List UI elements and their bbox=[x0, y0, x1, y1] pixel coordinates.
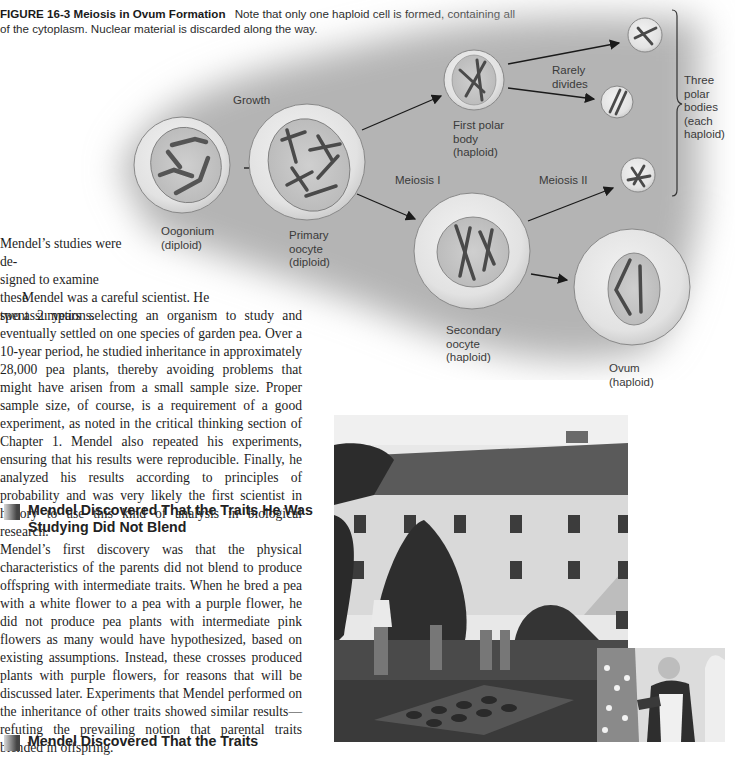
label-oogonium: Oogonium (diploid) bbox=[161, 225, 214, 252]
label-three-polar-bodies: Three polar bodies (each haploid) bbox=[684, 74, 725, 142]
label-secondary-oocyte: Secondary oocyte (haploid) bbox=[446, 324, 501, 365]
heading-marker-icon bbox=[4, 735, 20, 751]
first-polar-body-cell bbox=[444, 50, 504, 110]
paragraph-first-discovery-text: Mendel’s first discovery was that the ph… bbox=[0, 541, 302, 757]
polar-body-top-cell bbox=[628, 18, 662, 52]
label-meiosis-i: Meiosis I bbox=[395, 174, 440, 188]
polar-body-bottom-cell bbox=[621, 158, 655, 192]
heading-text: Mendel Discovered That the Traits bbox=[0, 733, 330, 750]
monastery-photo-art bbox=[334, 415, 628, 742]
mendel-portrait-inset bbox=[597, 648, 725, 742]
heading-marker-icon bbox=[4, 504, 20, 520]
label-first-polar-body: First polar body (haploid) bbox=[453, 119, 504, 160]
section-heading-traits-not-blend: Mendel Discovered That the Traits He Was… bbox=[0, 502, 330, 536]
paragraph-careful-first-line: Mendel was a careful scientist. He bbox=[0, 289, 300, 307]
heading-text: Mendel Discovered That the Traits He Was… bbox=[0, 502, 330, 536]
monastery-photo bbox=[334, 415, 628, 742]
paragraph-first-discovery: Mendel’s first discovery was that the ph… bbox=[0, 541, 302, 757]
label-ovum: Ovum (haploid) bbox=[609, 362, 654, 389]
label-meiosis-ii: Meiosis II bbox=[539, 174, 588, 188]
secondary-oocyte-cell bbox=[414, 193, 530, 309]
label-primary-oocyte: Primary oocyte (diploid) bbox=[289, 229, 330, 270]
ovum-cell bbox=[574, 229, 690, 345]
label-growth: Growth bbox=[233, 94, 270, 108]
label-rarely-divides: Rarely divides bbox=[552, 64, 588, 91]
polar-body-middle-cell bbox=[601, 86, 633, 118]
mendel-portrait-art bbox=[597, 648, 725, 742]
intro-line: Mendel’s studies were de- bbox=[0, 235, 130, 271]
section-heading-partial: Mendel Discovered That the Traits bbox=[0, 733, 330, 750]
